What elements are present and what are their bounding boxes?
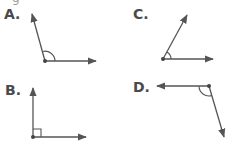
vertex-dot-icon	[43, 59, 47, 63]
angles-diagram	[0, 0, 228, 150]
vertex-dot-icon	[161, 57, 165, 61]
vertex-dot-icon	[31, 135, 35, 139]
ray-arrow-icon	[32, 14, 45, 61]
angle-c-acute	[161, 15, 213, 61]
ray-arrow-icon	[209, 86, 224, 137]
angle-arc-icon	[167, 52, 171, 59]
vertex-dot-icon	[207, 84, 211, 88]
angle-a-obtuse	[32, 14, 96, 63]
angle-b-right	[31, 88, 86, 139]
angle-d-obtuse	[157, 84, 224, 137]
